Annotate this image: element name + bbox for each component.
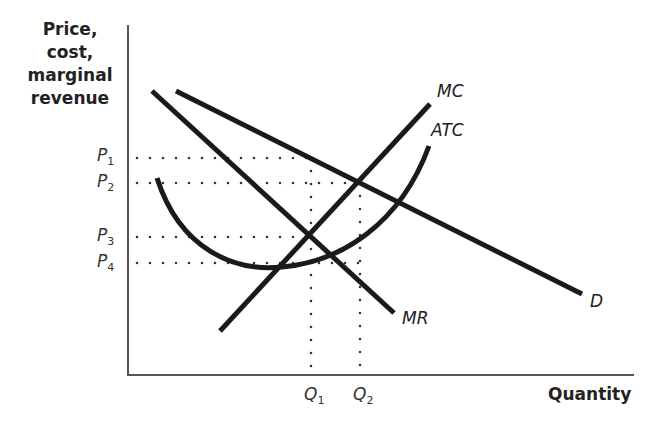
d-label: D (590, 291, 603, 311)
y-axis-label: Price, cost, marginal revenue (20, 18, 120, 110)
y-tick-p4-main: P (97, 251, 107, 271)
y-tick-p2: P2 (97, 171, 114, 194)
atc-label: ATC (431, 120, 464, 140)
x-tick-q2-sub: 2 (366, 394, 373, 407)
marginal-revenue-curve (152, 91, 394, 313)
x-tick-q2-main: Q (353, 384, 366, 404)
x-tick-q1-main: Q (304, 384, 317, 404)
y-axis-label-line-3: marginal (20, 64, 120, 87)
y-axis-label-line-1: Price, (20, 18, 120, 41)
y-tick-p1-main: P (97, 145, 107, 165)
reference-lines (137, 158, 360, 367)
mr-label: MR (402, 308, 428, 328)
x-tick-q1: Q1 (304, 384, 324, 407)
x-tick-q2: Q2 (353, 384, 373, 407)
y-tick-p3-sub: 3 (107, 235, 114, 248)
y-tick-p2-main: P (97, 171, 107, 191)
mc-label: MC (437, 81, 464, 101)
x-axis-label: Quantity (548, 384, 631, 404)
y-tick-p2-sub: 2 (107, 181, 114, 194)
marginal-cost-curve (220, 104, 430, 331)
y-tick-p4-sub: 4 (107, 261, 114, 274)
y-tick-p3: P3 (97, 225, 114, 248)
x-tick-q1-sub: 1 (317, 394, 324, 407)
y-tick-p4: P4 (97, 251, 114, 274)
y-tick-p1-sub: 1 (107, 155, 114, 168)
y-axis-label-line-2: cost, (20, 41, 120, 64)
y-axis-label-line-4: revenue (20, 87, 120, 110)
y-tick-p1: P1 (97, 145, 114, 168)
y-tick-p3-main: P (97, 225, 107, 245)
